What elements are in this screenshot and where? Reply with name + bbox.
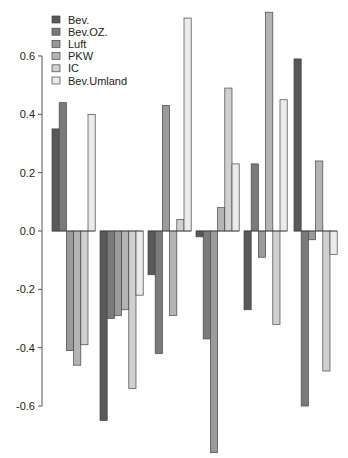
bar-bevoz-group-5: [251, 164, 258, 231]
bar-pkw-group-2: [122, 231, 129, 310]
bar-bevoz-group-6: [301, 231, 308, 406]
bar-bevumland-group-6: [330, 231, 337, 254]
bar-pkw-group-5: [266, 12, 273, 231]
bar-ic-group-3: [177, 219, 184, 231]
legend-label: IC: [68, 62, 79, 74]
bar-luft-group-6: [308, 231, 315, 240]
bar-luft-group-1: [66, 231, 73, 351]
bar-luft-group-5: [258, 231, 265, 257]
bar-pkw-group-1: [74, 231, 81, 365]
bar-bev-group-1: [52, 129, 59, 231]
bar-pkw-group-3: [170, 231, 177, 316]
legend: Bev.Bev.OZ.LuftPKWICBev.Umland: [52, 14, 127, 87]
y-tick-label: -0.4: [16, 342, 35, 354]
legend-label: PKW: [68, 50, 94, 62]
bar-ic-group-1: [81, 231, 88, 345]
y-tick-label: 0.6: [20, 50, 35, 62]
legend-swatch: [52, 28, 60, 35]
y-tick-label: -0.6: [16, 400, 35, 412]
y-tick-label: 0.4: [20, 108, 35, 120]
bar-bev-group-6: [294, 59, 301, 231]
bar-bevumland-group-4: [232, 164, 239, 231]
bar-ic-group-2: [129, 231, 136, 389]
bar-bev-group-2: [100, 231, 107, 421]
bar-bev-group-5: [244, 231, 251, 310]
bar-luft-group-4: [210, 231, 217, 453]
legend-label: Luft: [68, 38, 86, 50]
bar-bevoz-group-1: [59, 103, 66, 231]
y-tick-label: -0.2: [16, 283, 35, 295]
bar-bev-group-3: [148, 231, 155, 275]
y-tick-label: 0.2: [20, 167, 35, 179]
bar-pkw-group-4: [218, 208, 225, 231]
bar-bevoz-group-4: [203, 231, 210, 339]
bar-bevumland-group-5: [280, 100, 287, 231]
bar-bevoz-group-3: [155, 231, 162, 354]
legend-label: Bev.OZ.: [68, 26, 108, 38]
y-tick-label: 0.0: [20, 225, 35, 237]
legend-swatch: [52, 40, 60, 47]
bar-bevumland-group-2: [136, 231, 143, 295]
bar-ic-group-4: [225, 88, 232, 231]
bar-bevumland-group-1: [88, 114, 95, 231]
legend-label: Bev.Umland: [68, 75, 127, 87]
bar-pkw-group-6: [316, 161, 323, 231]
bar-luft-group-2: [114, 231, 121, 316]
bar-luft-group-3: [162, 106, 169, 231]
bar-bev-group-4: [196, 231, 203, 237]
legend-label: Bev.: [68, 14, 89, 26]
legend-swatch: [52, 77, 60, 84]
bar-bevumland-group-3: [184, 18, 191, 231]
legend-swatch: [52, 16, 60, 23]
legend-swatch: [52, 53, 60, 60]
legend-swatch: [52, 65, 60, 72]
y-axis: -0.6-0.4-0.20.00.20.40.6: [16, 50, 42, 412]
grouped-bar-chart: -0.6-0.4-0.20.00.20.40.6 Bev.Bev.OZ.Luft…: [0, 0, 348, 458]
bar-ic-group-6: [323, 231, 330, 371]
bar-bevoz-group-2: [107, 231, 114, 319]
bar-ic-group-5: [273, 231, 280, 324]
